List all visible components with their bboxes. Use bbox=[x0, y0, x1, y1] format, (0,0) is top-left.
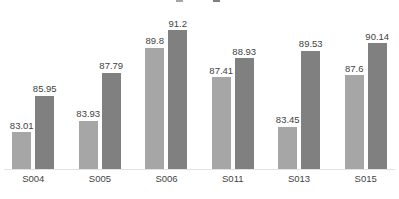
category-label-s006: S006 bbox=[155, 174, 177, 184]
bar-value-label: 83.93 bbox=[76, 109, 100, 119]
bar-s006-series-1[interactable] bbox=[145, 48, 164, 171]
bar-groups: 83.0185.9583.9387.7989.891.287.4188.9383… bbox=[0, 8, 399, 170]
bar-slot-s015-series-2: 90.14 bbox=[368, 8, 387, 170]
bar-value-label: 83.01 bbox=[10, 121, 34, 131]
bar-value-label: 89.53 bbox=[299, 39, 323, 49]
axis-baseline bbox=[4, 169, 395, 170]
legend-entry-series-1 bbox=[176, 0, 187, 2]
bar-slot-s004-series-1: 83.01 bbox=[12, 8, 31, 170]
category-label-s011: S011 bbox=[222, 174, 243, 184]
category-label-s015: S015 bbox=[355, 174, 377, 184]
bar-group-s011: 87.4188.93 bbox=[212, 8, 254, 170]
bar-group-s004: 83.0185.95 bbox=[12, 8, 54, 170]
bar-s011-series-2[interactable] bbox=[235, 58, 254, 170]
bar-slot-s013-series-1: 83.45 bbox=[278, 8, 297, 170]
bar-s013-series-2[interactable] bbox=[301, 51, 320, 170]
bar-group-s015: 87.690.14 bbox=[345, 8, 387, 170]
bar-slot-s011-series-1: 87.41 bbox=[212, 8, 231, 170]
plot-area: 83.0185.9583.9387.7989.891.287.4188.9383… bbox=[0, 8, 399, 170]
bar-s005-series-1[interactable] bbox=[79, 121, 98, 170]
category-label-s005: S005 bbox=[89, 174, 111, 184]
bar-s011-series-1[interactable] bbox=[212, 77, 231, 170]
bar-s015-series-2[interactable] bbox=[368, 43, 387, 170]
legend-swatch-series-2 bbox=[213, 0, 220, 2]
bar-value-label: 83.45 bbox=[276, 115, 300, 125]
bar-slot-s006-series-1: 89.8 bbox=[145, 8, 164, 170]
bar-slot-s005-series-1: 83.93 bbox=[79, 8, 98, 170]
bar-slot-s006-series-2: 91.2 bbox=[168, 8, 187, 170]
bar-group-s005: 83.9387.79 bbox=[79, 8, 121, 170]
bar-s004-series-2[interactable] bbox=[35, 96, 54, 170]
legend-entry-series-2 bbox=[213, 0, 224, 2]
bar-s006-series-2[interactable] bbox=[168, 30, 187, 170]
category-axis: S004S005S006S011S013S015 bbox=[0, 174, 399, 196]
bar-slot-s005-series-2: 87.79 bbox=[102, 8, 121, 170]
bar-value-label: 89.8 bbox=[146, 36, 165, 46]
bar-s013-series-1[interactable] bbox=[278, 127, 297, 170]
bar-group-s006: 89.891.2 bbox=[145, 8, 187, 170]
bar-slot-s015-series-1: 87.6 bbox=[345, 8, 364, 170]
bar-value-label: 88.93 bbox=[232, 47, 256, 57]
bar-value-label: 87.41 bbox=[209, 66, 233, 76]
bar-group-s013: 83.4589.53 bbox=[278, 8, 320, 170]
bar-value-label: 85.95 bbox=[33, 84, 57, 94]
bar-chart: 83.0185.9583.9387.7989.891.287.4188.9383… bbox=[0, 0, 399, 199]
bar-slot-s013-series-2: 89.53 bbox=[301, 8, 320, 170]
bar-value-label: 87.79 bbox=[99, 61, 123, 71]
legend-swatch-series-1 bbox=[176, 0, 183, 2]
bar-s005-series-2[interactable] bbox=[102, 73, 121, 170]
chart-legend bbox=[0, 0, 399, 5]
bar-slot-s011-series-2: 88.93 bbox=[235, 8, 254, 170]
bar-value-label: 87.6 bbox=[345, 64, 364, 74]
bar-value-label: 90.14 bbox=[365, 32, 389, 42]
bar-s015-series-1[interactable] bbox=[345, 75, 364, 170]
category-label-s013: S013 bbox=[288, 174, 310, 184]
bar-slot-s004-series-2: 85.95 bbox=[35, 8, 54, 170]
bar-value-label: 91.2 bbox=[169, 19, 188, 29]
bar-s004-series-1[interactable] bbox=[12, 132, 31, 170]
category-label-s004: S004 bbox=[22, 174, 44, 184]
